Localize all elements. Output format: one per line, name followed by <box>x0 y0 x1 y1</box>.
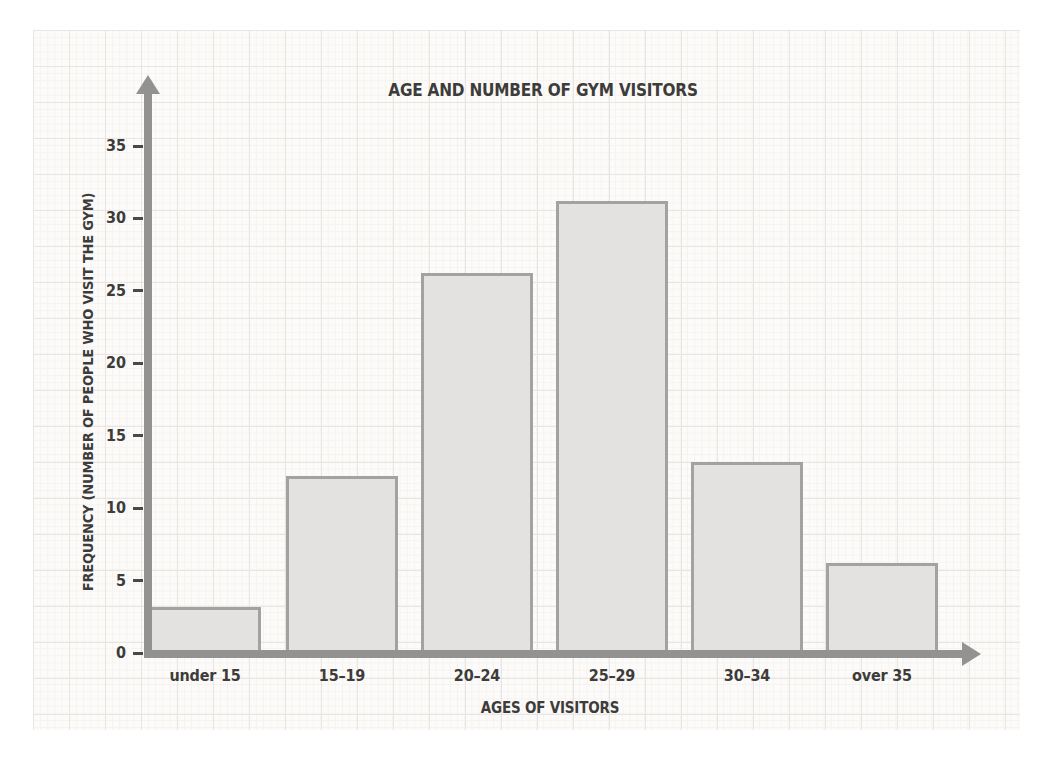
y-tick-label: 20 <box>86 353 126 373</box>
y-axis-title: FREQUENCY (NUMBER OF PEOPLE WHO VISIT TH… <box>80 193 96 592</box>
bar-30-34 <box>691 462 803 655</box>
bar-15-19 <box>286 476 398 655</box>
y-tick-mark <box>133 579 143 582</box>
y-tick-mark <box>133 652 143 655</box>
y-tick-mark <box>133 434 143 437</box>
y-tick-label: 35 <box>86 136 126 156</box>
bar-25-29 <box>556 201 668 655</box>
x-category-label: under 15 <box>135 666 275 686</box>
x-category-label: 25–29 <box>542 666 682 686</box>
y-tick-label: 0 <box>86 643 126 663</box>
y-tick-label: 5 <box>86 571 126 591</box>
y-tick-label: 15 <box>86 426 126 446</box>
y-tick-mark <box>133 507 143 510</box>
x-axis-title: AGES OF VISITORS <box>400 699 700 717</box>
bar-20-24 <box>421 273 533 655</box>
y-axis-line <box>144 92 152 658</box>
y-tick-label: 30 <box>86 208 126 228</box>
chart-title: AGE AND NUMBER OF GYM VISITORS <box>293 80 793 100</box>
bar-under-15 <box>149 607 261 655</box>
x-category-label: 20–24 <box>407 666 547 686</box>
y-tick-label: 25 <box>86 281 126 301</box>
x-category-label: 15–19 <box>272 666 412 686</box>
y-tick-mark <box>133 145 143 148</box>
y-axis-arrowhead-icon <box>136 75 160 94</box>
y-tick-mark <box>133 217 143 220</box>
bar-over-35 <box>826 563 938 655</box>
x-category-label: 30–34 <box>677 666 817 686</box>
x-axis-arrowhead-icon <box>962 642 981 666</box>
scanned-bar-chart-page: AGE AND NUMBER OF GYM VISITORS FREQUENCY… <box>0 0 1055 772</box>
x-category-label: over 35 <box>812 666 952 686</box>
y-tick-mark <box>133 289 143 292</box>
x-axis-line <box>144 650 964 658</box>
y-tick-mark <box>133 362 143 365</box>
y-tick-label: 10 <box>86 498 126 518</box>
